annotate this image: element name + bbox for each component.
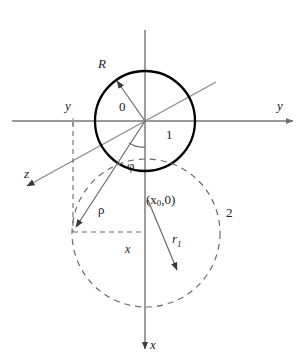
vector-rho (76, 121, 145, 227)
diagram-canvas (0, 0, 304, 364)
label-radius-R: R (98, 57, 106, 70)
label-angle-phi: φ (127, 159, 135, 172)
label-origin: 0 (119, 100, 126, 113)
label-coordinate-x: x (125, 243, 130, 255)
label-region-2: 2 (226, 206, 233, 219)
label-center-point-close: ,0) (161, 192, 175, 207)
label-center-point-open: (x (146, 192, 157, 207)
geometry-diagram: R 0 y y z x 1 2 φ ρ x (x0,0) r1 (0, 0, 304, 364)
label-radius-rho: ρ (98, 203, 105, 216)
label-radius-r1: r1 (172, 232, 181, 248)
angle-phi-arc (129, 143, 145, 147)
label-x-axis: x (150, 338, 156, 351)
label-radius-r1-subscript: 1 (177, 239, 181, 249)
label-center-point: (x0,0) (146, 193, 175, 206)
label-z-axis: z (24, 167, 29, 180)
dashed-circle-2 (72, 159, 220, 307)
label-y-axis-left: y (65, 99, 71, 112)
z-axis-line (27, 82, 216, 186)
label-region-1: 1 (166, 128, 173, 141)
label-center-point-subscript: 0 (157, 198, 161, 208)
label-y-axis-right: y (277, 99, 283, 112)
